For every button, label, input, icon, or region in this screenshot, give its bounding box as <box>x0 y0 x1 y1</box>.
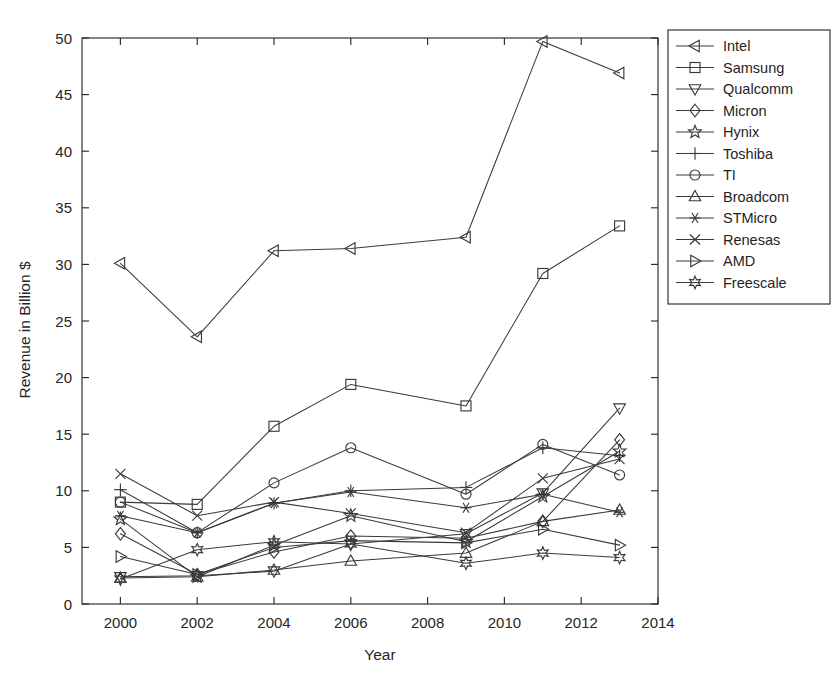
legend-label: Renesas <box>723 232 780 248</box>
legend-label: AMD <box>723 253 755 269</box>
legend-label: Broadcom <box>723 189 789 205</box>
y-tick-label: 5 <box>64 539 72 556</box>
x-tick-label: 2008 <box>411 614 444 631</box>
x-tick-label: 2002 <box>181 614 214 631</box>
y-axis-label: Revenue in Billion $ <box>16 261 33 398</box>
y-tick-label: 0 <box>64 596 72 613</box>
legend-label: STMicro <box>723 210 777 226</box>
x-tick-label: 2014 <box>641 614 674 631</box>
x-axis-label: Year <box>364 646 395 663</box>
y-tick-label: 15 <box>55 426 72 443</box>
x-tick-label: 2012 <box>565 614 598 631</box>
legend-label: Samsung <box>723 60 784 76</box>
revenue-line-chart: 0510152025303540455020002002200420062008… <box>0 0 839 681</box>
x-tick-label: 2010 <box>488 614 521 631</box>
x-tick-label: 2004 <box>257 614 290 631</box>
x-tick-label: 2000 <box>104 614 137 631</box>
legend-label: Qualcomm <box>723 81 793 97</box>
legend-label: Intel <box>723 38 750 54</box>
legend-label: TI <box>723 167 736 183</box>
legend-label: Freescale <box>723 275 787 291</box>
y-tick-label: 35 <box>55 199 72 216</box>
y-tick-label: 10 <box>55 482 72 499</box>
chart-figure: 0510152025303540455020002002200420062008… <box>0 0 839 681</box>
x-tick-label: 2006 <box>334 614 367 631</box>
y-tick-label: 40 <box>55 143 72 160</box>
y-tick-label: 50 <box>55 30 72 47</box>
y-tick-label: 45 <box>55 86 72 103</box>
legend-label: Hynix <box>723 124 760 140</box>
legend-label: Micron <box>723 103 767 119</box>
y-tick-label: 20 <box>55 369 72 386</box>
y-tick-label: 30 <box>55 256 72 273</box>
y-tick-label: 25 <box>55 313 72 330</box>
legend-label: Toshiba <box>723 146 774 162</box>
chart-legend: IntelSamsungQualcommMicronHynixToshibaTI… <box>668 30 830 304</box>
